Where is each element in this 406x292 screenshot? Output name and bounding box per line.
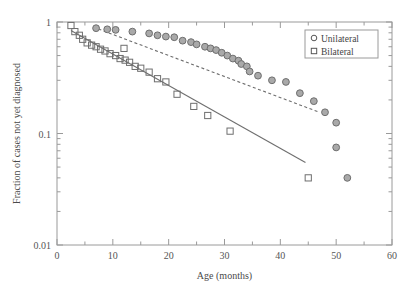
x-tick-label: 30 xyxy=(220,250,230,261)
data-point-unilateral xyxy=(93,25,100,32)
legend-label-bilateral: Bilateral xyxy=(321,47,354,57)
data-point-unilateral xyxy=(193,41,200,48)
x-tick-label: 0 xyxy=(55,250,60,261)
data-point-unilateral xyxy=(333,119,340,126)
data-point-unilateral xyxy=(269,77,276,84)
data-point-unilateral xyxy=(112,26,119,33)
chart-figure: 010203040506010.10.01Age (months)Fractio… xyxy=(0,0,406,292)
x-tick-label: 40 xyxy=(275,250,285,261)
data-point-unilateral xyxy=(171,34,178,41)
data-point-unilateral xyxy=(246,68,253,75)
data-point-bilateral xyxy=(174,91,180,97)
data-point-bilateral xyxy=(305,175,311,181)
data-point-unilateral xyxy=(310,98,317,105)
data-point-bilateral xyxy=(205,112,211,118)
x-tick-label: 60 xyxy=(387,250,397,261)
data-point-unilateral xyxy=(162,33,169,40)
data-point-bilateral xyxy=(121,45,127,51)
fit-line-unilateral xyxy=(93,27,319,112)
data-point-bilateral xyxy=(227,128,233,134)
x-tick-label: 10 xyxy=(108,250,118,261)
data-point-unilateral xyxy=(322,109,329,116)
data-point-unilateral xyxy=(344,174,351,181)
x-axis-title: Age (months) xyxy=(197,270,252,282)
data-point-unilateral xyxy=(154,32,161,39)
data-point-unilateral xyxy=(104,26,111,33)
data-point-unilateral xyxy=(146,30,153,37)
data-point-unilateral xyxy=(283,79,290,86)
data-point-unilateral xyxy=(129,28,136,35)
x-tick-label: 50 xyxy=(331,250,341,261)
y-axis-title: Fraction of cases not yet diagnosed xyxy=(11,63,22,204)
data-point-unilateral xyxy=(333,144,340,151)
data-point-unilateral xyxy=(296,90,303,97)
y-tick-label: 1 xyxy=(46,17,51,28)
data-point-bilateral xyxy=(191,103,197,109)
legend-label-unilateral: Unilateral xyxy=(321,34,359,44)
fit-line-bilateral xyxy=(71,30,306,162)
y-tick-label: 0.1 xyxy=(39,129,52,140)
survival-plot: 010203040506010.10.01Age (months)Fractio… xyxy=(0,0,406,292)
data-point-unilateral xyxy=(179,37,186,44)
data-point-bilateral xyxy=(68,22,74,28)
x-tick-label: 20 xyxy=(164,250,174,261)
y-tick-label: 0.01 xyxy=(34,240,52,251)
data-point-unilateral xyxy=(255,72,262,79)
